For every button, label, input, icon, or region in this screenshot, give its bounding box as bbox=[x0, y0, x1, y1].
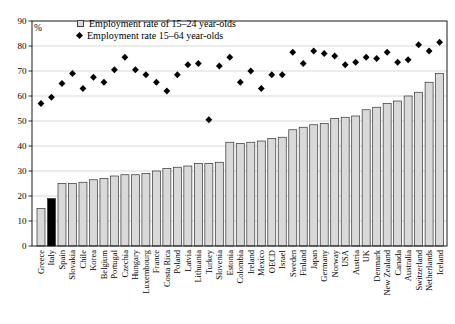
x-label-Australia: Australia bbox=[403, 250, 413, 281]
x-label-Austria: Austria bbox=[351, 250, 361, 275]
bar-Korea bbox=[89, 180, 97, 246]
marker-Lithuania bbox=[195, 60, 202, 67]
bar-Australia bbox=[404, 96, 412, 246]
x-label-Finland: Finland bbox=[298, 249, 308, 276]
y-tick-label: 80 bbox=[18, 41, 28, 51]
y-tick-label: 30 bbox=[18, 166, 28, 176]
y-tick-label: 70 bbox=[18, 66, 28, 76]
x-label-Chile: Chile bbox=[78, 250, 88, 269]
x-label-Costa Rica: Costa Rica bbox=[162, 250, 172, 287]
x-label-Spain: Spain bbox=[57, 249, 67, 269]
bar-Estonia bbox=[226, 142, 234, 246]
bar-Switzerland bbox=[415, 92, 423, 246]
marker-Netherlands bbox=[426, 48, 433, 55]
bar-Israel bbox=[278, 137, 286, 246]
marker-Norway bbox=[331, 53, 338, 60]
marker-Latvia bbox=[184, 61, 191, 68]
bar-Spain bbox=[58, 184, 66, 247]
x-label-Czechia: Czechia bbox=[120, 250, 130, 278]
bar-Turkey bbox=[205, 164, 213, 247]
bar-series-marker-icon bbox=[77, 20, 84, 27]
marker-Czechia bbox=[122, 54, 129, 61]
bar-New Zealand bbox=[383, 104, 391, 247]
x-label-Korea: Korea bbox=[88, 250, 98, 271]
x-label-Switzerland: Switzerland bbox=[414, 249, 424, 290]
bar-Slovenia bbox=[215, 162, 223, 246]
marker-Denmark bbox=[373, 55, 380, 62]
bar-Belgium bbox=[100, 179, 108, 247]
marker-Poland bbox=[174, 71, 181, 78]
marker-New Zealand bbox=[384, 49, 391, 56]
x-label-Iceland: Iceland bbox=[435, 249, 445, 275]
marker-UK bbox=[363, 54, 370, 61]
x-label-Poland: Poland bbox=[172, 249, 182, 273]
y-tick-label: 90 bbox=[18, 16, 28, 26]
x-label-Germany: Germany bbox=[319, 249, 329, 281]
x-label-Latvia: Latvia bbox=[183, 250, 193, 272]
diamond-series-marker-icon bbox=[76, 32, 83, 39]
x-label-Slovenia: Slovenia bbox=[214, 250, 224, 280]
bar-Ireland bbox=[247, 142, 255, 246]
bar-UK bbox=[362, 110, 370, 246]
bar-Chile bbox=[79, 182, 87, 246]
x-label-Canada: Canada bbox=[393, 250, 403, 276]
marker-Germany bbox=[321, 50, 328, 57]
y-tick-label: 10 bbox=[18, 216, 28, 226]
x-label-New Zealand: New Zealand bbox=[382, 249, 392, 295]
bar-Finland bbox=[299, 127, 307, 246]
y-tick-label: 40 bbox=[18, 141, 28, 151]
x-label-Denmark: Denmark bbox=[372, 249, 382, 281]
x-label-Mexico: Mexico bbox=[256, 250, 266, 276]
marker-Israel bbox=[279, 71, 286, 78]
x-label-Lithuania: Lithuania bbox=[193, 250, 203, 283]
x-label-Turkey: Turkey bbox=[204, 249, 214, 274]
marker-Portugal bbox=[111, 66, 118, 73]
bar-Czechia bbox=[121, 175, 129, 246]
bar-Mexico bbox=[257, 141, 265, 246]
y-tick-label: 20 bbox=[18, 191, 28, 201]
bar-Poland bbox=[173, 167, 181, 246]
marker-Sweden bbox=[289, 49, 296, 56]
x-label-Netherlands: Netherlands bbox=[424, 250, 434, 291]
x-label-UK: UK bbox=[361, 249, 371, 262]
marker-Costa Rica bbox=[163, 88, 170, 95]
bar-USA bbox=[341, 117, 349, 246]
x-label-Slovakia: Slovakia bbox=[67, 250, 77, 280]
bar-Greece bbox=[37, 209, 45, 247]
marker-Austria bbox=[352, 59, 359, 66]
y-axis-unit-label: % bbox=[34, 23, 42, 33]
x-label-Estonia: Estonia bbox=[225, 250, 235, 276]
marker-Belgium bbox=[101, 79, 108, 86]
chart-legend: Employment rate of 15–24 year-olds Emplo… bbox=[77, 18, 236, 41]
bar-Sweden bbox=[289, 130, 297, 246]
marker-Italy bbox=[48, 94, 55, 101]
x-label-Japan: Japan bbox=[309, 249, 319, 269]
marker-Mexico bbox=[258, 85, 265, 92]
x-label-Portugal: Portugal bbox=[109, 249, 119, 278]
bar-Luxembourg bbox=[142, 174, 150, 247]
bar-Hungary bbox=[131, 175, 139, 246]
bar-Slovakia bbox=[68, 184, 76, 247]
bar-Canada bbox=[394, 101, 402, 246]
marker-Korea bbox=[90, 74, 97, 81]
x-label-Israel: Israel bbox=[277, 249, 287, 269]
bar-Germany bbox=[320, 124, 328, 247]
marker-Hungary bbox=[132, 66, 139, 73]
x-label-USA: USA bbox=[340, 249, 350, 267]
bar-OECD bbox=[268, 139, 276, 247]
marker-Canada bbox=[394, 59, 401, 66]
bar-Denmark bbox=[373, 107, 381, 246]
legend-label-total: Employment rate 15–64 year-olds bbox=[87, 30, 223, 42]
x-label-Belgium: Belgium bbox=[99, 250, 109, 280]
x-label-OECD: OECD bbox=[267, 250, 277, 273]
x-label-Italy: Italy bbox=[46, 249, 56, 265]
marker-Colombia bbox=[237, 79, 244, 86]
bar-Japan bbox=[310, 125, 318, 246]
chart-plot-area: 0102030405060708090GreeceItalySpainSlova… bbox=[0, 0, 455, 324]
marker-Estonia bbox=[226, 54, 233, 61]
x-label-Luxembourg: Luxembourg bbox=[141, 249, 151, 294]
bar-Norway bbox=[331, 119, 339, 247]
marker-Switzerland bbox=[415, 41, 422, 48]
marker-USA bbox=[342, 61, 349, 68]
x-label-Sweden: Sweden bbox=[288, 249, 298, 277]
